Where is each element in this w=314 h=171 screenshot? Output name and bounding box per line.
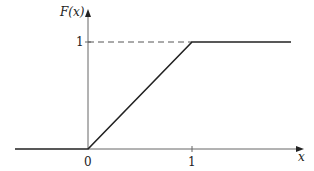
y-tick-label-1: 1 bbox=[76, 35, 84, 49]
cdf-chart: F(x) 1 0 1 x bbox=[0, 0, 314, 171]
y-axis-label: F(x) bbox=[59, 5, 85, 19]
x-tick-label-0: 0 bbox=[84, 155, 92, 169]
x-tick-label-1: 1 bbox=[188, 155, 196, 169]
x-axis-label: x bbox=[298, 150, 305, 164]
cdf-line bbox=[15, 42, 291, 149]
y-axis-arrow-icon bbox=[85, 9, 91, 17]
